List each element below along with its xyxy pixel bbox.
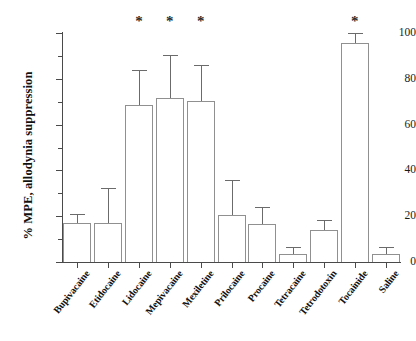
error-bar-cap [70, 214, 85, 215]
error-bar-stem [386, 247, 387, 254]
error-bar-stem [201, 65, 202, 100]
x-tick [77, 263, 78, 268]
x-tick [293, 263, 294, 268]
error-bar-stem [232, 180, 233, 215]
x-label-prilocaine: Prilocaine [211, 268, 246, 308]
significance-star: * [129, 14, 149, 29]
y-axis-title: % MPE, allodynia suppression [21, 56, 36, 256]
x-label-saline: Saline [376, 268, 400, 295]
error-bar-stem [293, 247, 294, 254]
bar-chart-figure: % MPE, allodynia suppression 02040608010… [0, 0, 416, 341]
x-tick [139, 263, 140, 268]
x-tick [232, 263, 233, 268]
error-bar-cap [101, 188, 116, 189]
error-bar-cap [379, 247, 394, 248]
y-tick-label: 60 [364, 119, 416, 131]
x-label-etidocaine: Etidocaine [87, 268, 123, 310]
error-bar-cap [225, 180, 240, 181]
x-tick [201, 263, 202, 268]
x-tick [170, 263, 171, 268]
x-label-procaine: Procaine [246, 268, 277, 304]
bar-saline [372, 254, 400, 262]
error-bar-stem [324, 220, 325, 230]
x-tick [108, 263, 109, 268]
bar-tetrodotoxin [310, 230, 338, 262]
x-label-tocainide: Tocainide [336, 268, 370, 307]
y-tick-label: 80 [364, 73, 416, 85]
bar-tocainide [341, 43, 369, 262]
error-bar-stem [108, 188, 109, 223]
error-bar-cap [132, 70, 147, 71]
error-bar-cap [317, 220, 332, 221]
error-bar-cap [286, 247, 301, 248]
bar-lidocaine [125, 105, 153, 262]
x-tick [324, 263, 325, 268]
error-bar-stem [170, 55, 171, 99]
x-tick [262, 263, 263, 268]
x-tick [355, 263, 356, 268]
error-bar-stem [139, 70, 140, 105]
y-tick-label: 40 [364, 165, 416, 177]
bar-tetracaine [279, 254, 307, 262]
y-tick-label: 100 [364, 27, 416, 39]
error-bar-cap [348, 33, 363, 34]
error-bar-stem [355, 33, 356, 43]
significance-star: * [191, 14, 211, 29]
bar-mexiletine [187, 101, 215, 262]
significance-star: * [160, 14, 180, 29]
error-bar-stem [77, 214, 78, 223]
bar-etidocaine [94, 223, 122, 262]
error-bar-stem [262, 207, 263, 224]
error-bar-cap [194, 65, 209, 66]
bar-bupivacaine [63, 223, 91, 262]
error-bar-cap [255, 207, 270, 208]
y-tick-label: 20 [364, 210, 416, 222]
significance-star: * [345, 14, 365, 29]
bar-mepivacaine [156, 98, 184, 262]
x-tick [386, 263, 387, 268]
error-bar-cap [163, 55, 178, 56]
bar-procaine [248, 224, 276, 262]
bar-prilocaine [218, 215, 246, 262]
x-label-bupivacaine: Bupivacaine [52, 268, 92, 316]
